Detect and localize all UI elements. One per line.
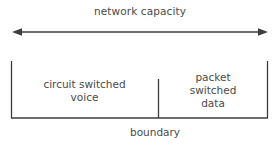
section-label-packet-switched-data: packet switched data bbox=[158, 71, 268, 110]
arrow-head-left-icon bbox=[12, 28, 22, 36]
network-capacity-arrow bbox=[0, 22, 280, 44]
diagram-title: network capacity bbox=[0, 5, 280, 17]
network-capacity-diagram: network capacity circuit switched voice … bbox=[0, 0, 280, 149]
section-label-circuit-switched-voice: circuit switched voice bbox=[11, 78, 158, 104]
arrow-head-right-icon bbox=[258, 28, 268, 36]
boundary-caption: boundary bbox=[105, 126, 205, 138]
